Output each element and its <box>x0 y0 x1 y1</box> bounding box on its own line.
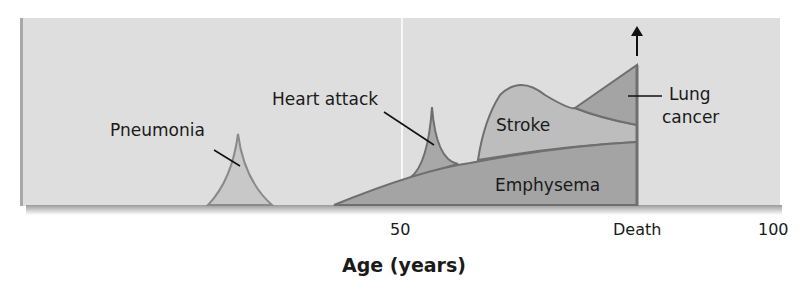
stroke-label: Stroke <box>496 115 550 135</box>
heart-attack-label: Heart attack <box>272 89 378 109</box>
tick-50: 50 <box>390 220 410 239</box>
cancer-label: cancer <box>662 107 719 127</box>
x-axis-title: Age (years) <box>342 254 466 276</box>
tick-death: Death <box>613 220 661 239</box>
emphysema-label: Emphysema <box>495 175 600 195</box>
chart-svg <box>0 0 807 297</box>
lung-label: Lung <box>669 84 711 104</box>
pneumonia-label: Pneumonia <box>110 120 205 140</box>
heart-attack-leader <box>384 112 434 145</box>
tick-100: 100 <box>758 220 789 239</box>
arrow-head-icon <box>631 26 643 36</box>
pneumonia-area <box>208 134 272 205</box>
